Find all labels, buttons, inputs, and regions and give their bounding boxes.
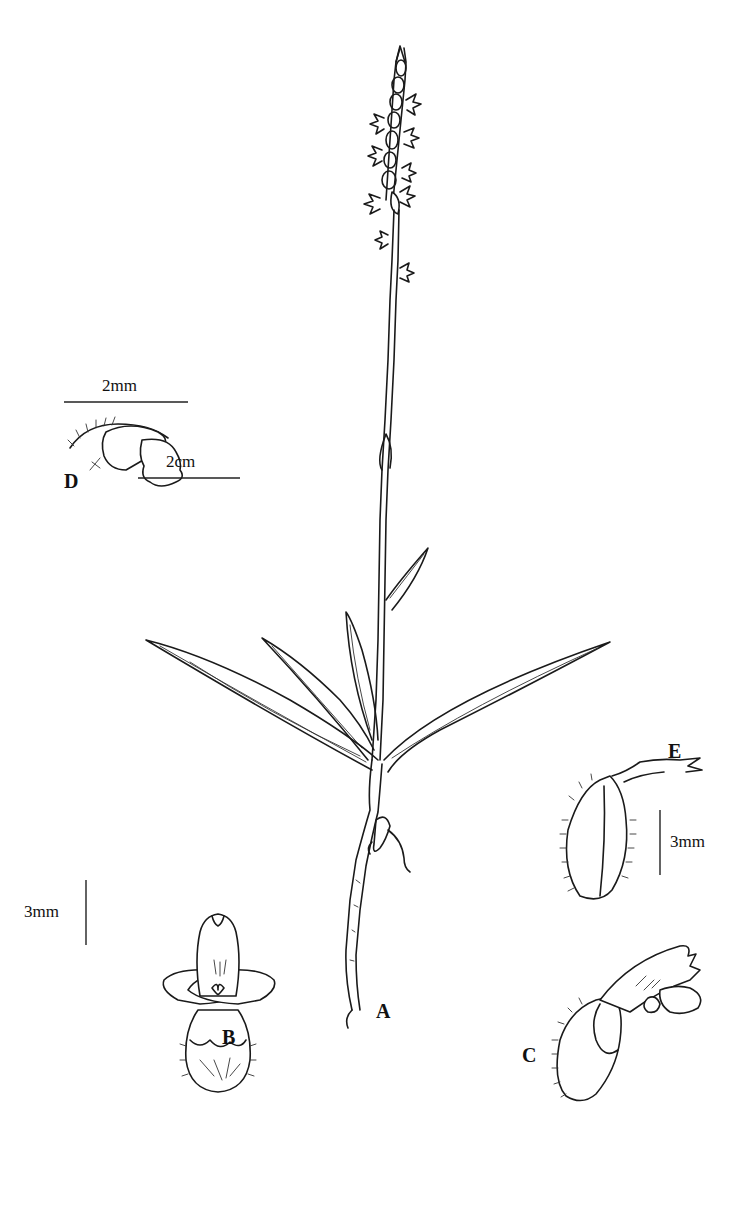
botanical-plate: 2cm 2mm 3mm 3mm A B C D E	[0, 0, 753, 1220]
panel-label-d: D	[64, 470, 78, 493]
panel-label-a: A	[376, 1000, 390, 1023]
panel-label-b: B	[222, 1026, 235, 1049]
panel-label-c: C	[522, 1044, 536, 1067]
detail-b-drawing	[163, 914, 274, 1092]
plant-habit-drawing	[146, 46, 610, 1028]
scale-label-3mm-b: 3mm	[24, 902, 59, 922]
detail-c-drawing	[552, 946, 701, 1101]
scale-label-3mm-e: 3mm	[670, 832, 705, 852]
scale-label-2mm: 2mm	[102, 376, 137, 396]
detail-e-drawing	[560, 758, 702, 899]
plant-drawing	[0, 0, 753, 1220]
scale-label-2cm: 2cm	[166, 452, 195, 472]
panel-label-e: E	[668, 740, 681, 763]
